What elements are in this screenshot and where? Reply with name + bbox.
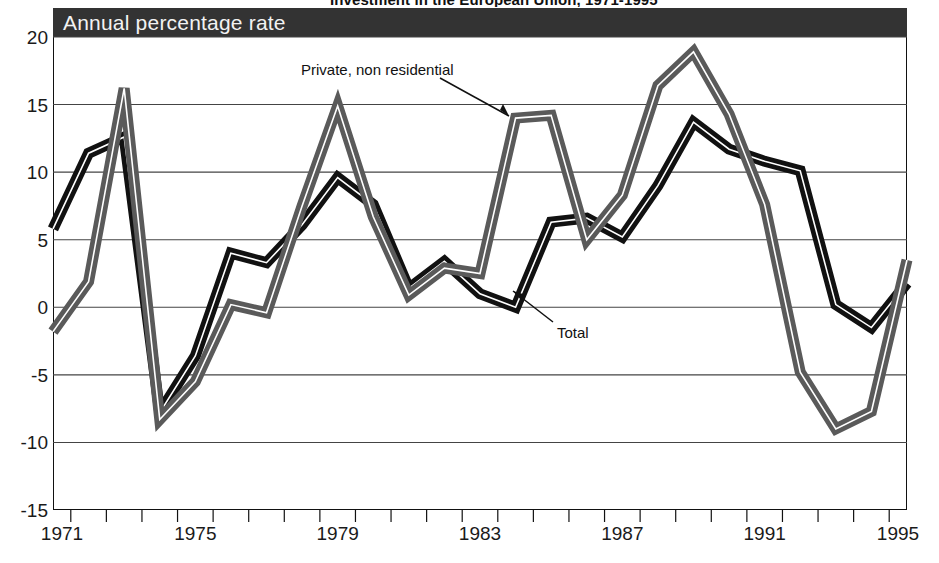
x-axis-label-1983: 1983 [459,524,501,543]
x-axis-label-1987: 1987 [601,524,643,543]
x-axis-labels: 1971197519791983198719911995 [0,0,939,563]
x-axis-label-1979: 1979 [317,524,359,543]
x-axis-label-1991: 1991 [744,524,786,543]
annotation-total-label: Total [557,325,589,340]
chart-root: Investment in the European Union, 1971-1… [0,0,939,563]
annotation-private-label: Private, non residential [301,62,454,77]
x-axis-label-1995: 1995 [877,524,919,543]
x-axis-label-1971: 1971 [41,524,83,543]
x-axis-label-1975: 1975 [174,524,216,543]
